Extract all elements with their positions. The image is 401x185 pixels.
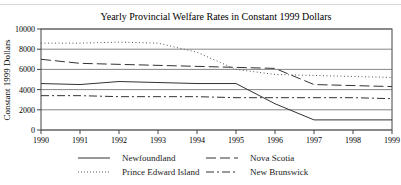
svg-text:1994: 1994 bbox=[189, 136, 205, 145]
legend-item-nova-scotia: Nova Scotia bbox=[206, 153, 294, 163]
series-lines bbox=[41, 42, 392, 120]
legend-label: Nova Scotia bbox=[250, 153, 294, 163]
legend-label: Prince Edward Island bbox=[122, 167, 199, 177]
svg-text:1992: 1992 bbox=[111, 136, 127, 145]
svg-text:0: 0 bbox=[31, 126, 35, 135]
legend-item-pei: Prince Edward Island bbox=[78, 167, 199, 177]
svg-text:1997: 1997 bbox=[306, 136, 322, 145]
gridlines bbox=[41, 29, 392, 130]
legend-item-newfoundland: Newfoundland bbox=[78, 153, 176, 163]
svg-text:1993: 1993 bbox=[150, 136, 166, 145]
dash-dot-line-swatch-icon bbox=[206, 169, 238, 175]
y-axis-ticks: 0200040006000800010000 bbox=[15, 25, 41, 135]
dotted-line-swatch-icon bbox=[78, 169, 110, 175]
line-chart: Yearly Provincial Welfare Rates in Const… bbox=[0, 0, 401, 150]
svg-text:1996: 1996 bbox=[267, 136, 283, 145]
x-axis-ticks: 1990199119921993199419951996199719981999 bbox=[33, 130, 400, 145]
svg-text:1995: 1995 bbox=[228, 136, 244, 145]
svg-text:2000: 2000 bbox=[19, 106, 35, 115]
series-line-new-brunswick bbox=[41, 96, 392, 99]
solid-line-swatch-icon bbox=[78, 155, 110, 161]
svg-text:1998: 1998 bbox=[345, 136, 361, 145]
svg-text:10000: 10000 bbox=[15, 25, 35, 34]
svg-text:1999: 1999 bbox=[384, 136, 400, 145]
legend-item-new-brunswick: New Brunswick bbox=[206, 167, 308, 177]
series-line-prince-edward-island bbox=[41, 42, 392, 77]
series-line-nova-scotia bbox=[41, 59, 392, 86]
svg-text:1991: 1991 bbox=[72, 136, 88, 145]
legend-label: Newfoundland bbox=[122, 153, 176, 163]
dashed-line-swatch-icon bbox=[206, 155, 238, 161]
series-line-newfoundland bbox=[41, 82, 392, 120]
chart-title: Yearly Provincial Welfare Rates in Const… bbox=[100, 11, 331, 22]
svg-text:8000: 8000 bbox=[19, 45, 35, 54]
legend-label: New Brunswick bbox=[250, 167, 308, 177]
svg-text:6000: 6000 bbox=[19, 65, 35, 74]
svg-text:4000: 4000 bbox=[19, 86, 35, 95]
svg-text:1990: 1990 bbox=[33, 136, 49, 145]
y-axis-label: Constant 1999 Dollars bbox=[2, 39, 12, 120]
